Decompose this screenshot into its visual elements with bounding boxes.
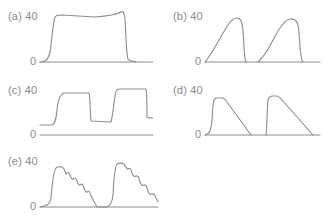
panel-e-waveform <box>0 0 160 220</box>
panel-e: (e) 40 0 <box>0 0 160 220</box>
